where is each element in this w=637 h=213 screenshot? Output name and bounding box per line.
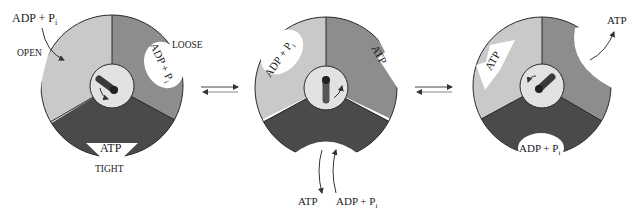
equilibrium-arrows-1 — [201, 87, 238, 92]
state3-released-label: ATP — [607, 14, 627, 26]
state-2-enzyme — [245, 12, 410, 170]
loose-label: LOOSE — [172, 40, 203, 50]
state2-in-label: ADP + Pi — [336, 195, 377, 210]
open-label: OPEN — [17, 48, 42, 58]
tight-site-label: ATP — [100, 141, 122, 155]
state1-substrate-in: ADP + Pi — [12, 11, 58, 27]
state2-out-label: ATP — [298, 195, 318, 207]
equilibrium-arrows-2 — [415, 87, 452, 92]
binding-change-diagram: ADP + Pi OPEN LOOSE ADP + Pi ATP TIGHT — [0, 0, 637, 213]
tight-label: TIGHT — [95, 164, 124, 174]
